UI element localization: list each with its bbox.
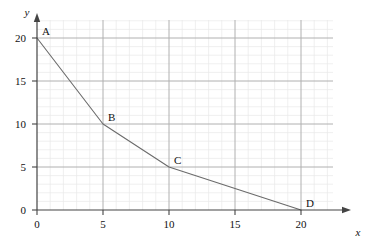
grid-major-horizontal [37,38,333,167]
y-axis-tick-labels: 0 5 10 15 20 [15,32,27,216]
y-axis-label: y [24,6,30,18]
x-tick-label-0: 0 [34,218,40,230]
line-chart: 0 5 10 15 20 0 5 10 15 20 x y A B C D [0,0,375,244]
chart-container: 0 5 10 15 20 0 5 10 15 20 x y A B C D [0,0,375,244]
point-label-a: A [42,25,50,37]
y-tick-label-5: 5 [21,161,27,173]
y-axis [34,13,40,210]
x-axis-label: x [355,226,361,238]
grid-minor-horizontal [37,21,333,202]
y-axis-ticks [32,38,37,210]
grid-minor-vertical [50,20,327,210]
x-axis-tick-labels: 0 5 10 15 20 [34,218,307,230]
y-tick-label-0: 0 [21,204,27,216]
point-label-b: B [108,111,115,123]
x-tick-label-5: 5 [100,218,106,230]
y-tick-label-10: 10 [15,118,27,130]
x-tick-label-10: 10 [164,218,176,230]
x-axis [37,207,351,213]
y-tick-label-20: 20 [15,32,27,44]
point-label-d: D [306,197,314,209]
x-axis-ticks [37,210,301,215]
y-tick-label-15: 15 [15,75,27,87]
data-point-labels: A B C D [42,25,314,209]
point-label-c: C [174,154,181,166]
grid-major-vertical [103,20,301,210]
x-tick-label-15: 15 [230,218,242,230]
x-tick-label-20: 20 [296,218,308,230]
